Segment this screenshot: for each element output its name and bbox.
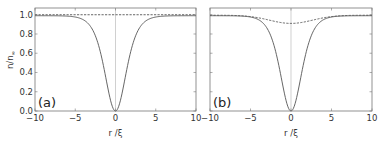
svg-text:n/n∞: n/n∞: [5, 51, 16, 69]
panel-a-label: (a): [38, 95, 56, 110]
x-tick-label: 0: [288, 113, 293, 123]
y-tick-label: 1.0: [19, 10, 33, 20]
panel-a: 0.00.20.40.60.81.0 −10−50510 (a) r /ξ n/…: [5, 8, 201, 138]
x-tick-label: 10: [191, 113, 202, 123]
panel-a-x-axis-label: r /ξ: [109, 128, 123, 138]
x-tick-label: 10: [367, 113, 378, 123]
y-tick-label: 0.6: [19, 48, 33, 58]
x-tick-label: −10: [26, 113, 44, 123]
panel-b-x-axis-label: r /ξ: [284, 128, 298, 138]
y-axis-label-subscript: ∞: [10, 51, 16, 56]
panel-b-label: (b): [213, 95, 231, 110]
figure: 0.00.20.40.60.81.0 −10−50510 (a) r /ξ n/…: [0, 0, 391, 143]
x-tick-label: 5: [153, 113, 158, 123]
panel-b-plot-area: [210, 8, 372, 111]
y-axis-label-main: n/n: [5, 55, 15, 69]
y-axis-label: n/n∞: [5, 51, 16, 69]
panel-b: −10−50510 (b) r /ξ: [201, 8, 377, 138]
y-tick-label: 0.4: [19, 67, 33, 77]
x-tick-label: −10: [201, 113, 219, 123]
x-tick-label: −5: [244, 113, 257, 123]
x-tick-label: −5: [69, 113, 82, 123]
panel-a-plot-area: [35, 8, 196, 111]
y-tick-label: 0.2: [19, 87, 33, 97]
y-tick-label: 0.8: [19, 29, 33, 39]
x-tick-label: 0: [113, 113, 118, 123]
x-tick-label: 5: [329, 113, 334, 123]
